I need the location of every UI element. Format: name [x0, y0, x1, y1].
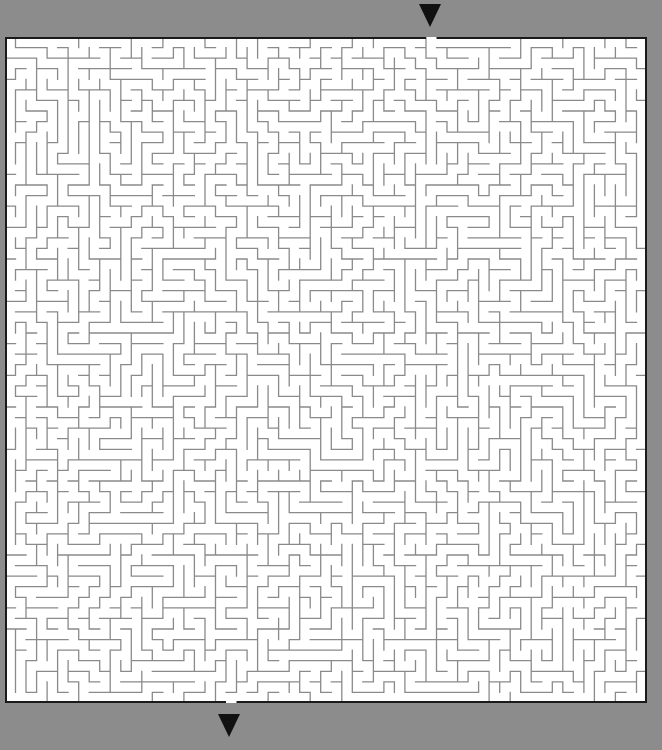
- entrance-arrow-icon: [419, 4, 441, 27]
- maze-walls: [5, 37, 647, 703]
- maze-board[interactable]: [5, 37, 647, 703]
- exit-arrow-icon: [218, 714, 240, 737]
